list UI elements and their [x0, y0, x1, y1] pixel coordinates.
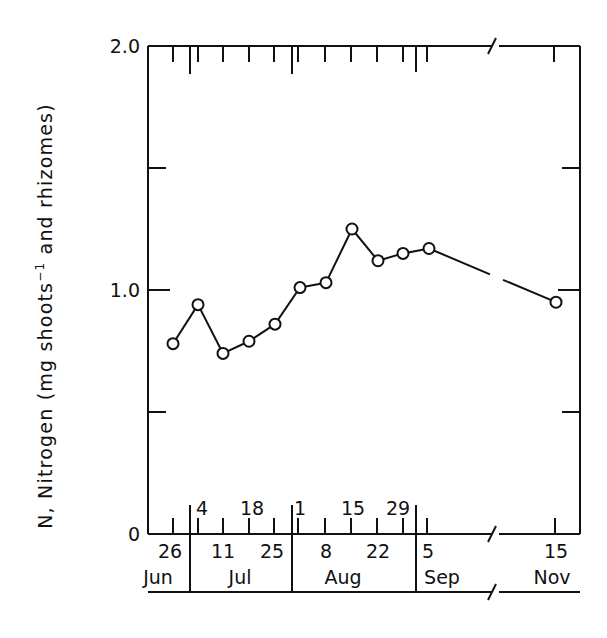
data-point-marker — [295, 282, 306, 293]
y-ticks — [148, 168, 580, 412]
nitrogen-line-chart: N, Nitrogen (mg shoots−1 and rhizomes) 2… — [0, 0, 607, 638]
data-point-marker — [321, 277, 332, 288]
x-label-11-jul: 11 — [211, 540, 235, 562]
x-label-1-aug: 1 — [294, 497, 306, 519]
x-label-26-jun: 26 — [158, 540, 182, 562]
month-label-sep: Sep — [424, 566, 460, 588]
x-label-5-sep: 5 — [422, 540, 434, 562]
series-line-segment — [429, 249, 490, 275]
data-point-marker — [424, 243, 435, 254]
top-x-ticks — [173, 46, 554, 74]
y-axis-label-superscript: −1 — [33, 262, 47, 282]
nitrogen-series — [168, 224, 562, 359]
data-point-marker — [398, 248, 409, 259]
svg-text:N, Nitrogen (mg shoots−1 and r: N, Nitrogen (mg shoots−1 and rhizomes) — [33, 103, 56, 529]
x-label-15-nov: 15 — [544, 540, 568, 562]
series-line-segment — [198, 305, 223, 354]
x-label-15-aug: 15 — [341, 497, 365, 519]
data-point-marker — [168, 338, 179, 349]
month-label-nov: Nov — [533, 566, 570, 588]
x-label-29-aug: 29 — [386, 497, 410, 519]
data-point-marker — [551, 297, 562, 308]
y-tick-label-0: 0 — [128, 523, 140, 545]
month-label-jul: Jul — [228, 566, 252, 588]
x-month-labels: Jun Jul Aug Sep Nov — [142, 566, 570, 588]
y-tick-labels: 2.0 1.0 0 — [110, 35, 140, 545]
month-label-aug: Aug — [324, 566, 361, 588]
series-line-segment — [275, 288, 300, 325]
axis-break-marks — [488, 38, 496, 600]
data-point-marker — [244, 336, 255, 347]
y-axis-label-rest: and rhizomes) — [34, 103, 56, 262]
data-point-marker — [373, 255, 384, 266]
series-line-segment — [503, 280, 556, 302]
series-line-segment — [173, 305, 198, 344]
y-axis-label: N, Nitrogen (mg shoots−1 and rhizomes) — [33, 103, 56, 529]
x-label-22-aug: 22 — [366, 540, 390, 562]
y-tick-label-1: 1.0 — [110, 279, 140, 301]
data-point-marker — [193, 299, 204, 310]
x-label-18-jul: 18 — [240, 497, 264, 519]
data-point-marker — [218, 348, 229, 359]
data-point-marker — [347, 224, 358, 235]
x-lower-date-labels: 26 11 25 8 22 5 15 — [158, 540, 568, 562]
x-label-4-jul: 4 — [196, 497, 208, 519]
plot-frame — [148, 46, 580, 534]
x-label-8-aug: 8 — [320, 540, 332, 562]
month-label-jun: Jun — [142, 566, 173, 588]
x-upper-date-labels: 4 18 1 15 29 — [196, 497, 410, 519]
y-axis-label-main: N, Nitrogen (mg shoots — [34, 282, 56, 529]
series-line-segment — [326, 229, 352, 283]
data-point-marker — [270, 319, 281, 330]
y-tick-label-2: 2.0 — [110, 35, 140, 57]
x-label-25-jul: 25 — [260, 540, 284, 562]
